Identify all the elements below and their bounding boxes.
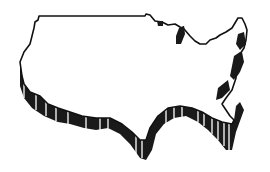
usa-map-graphic bbox=[0, 0, 270, 172]
usa-map-illustration bbox=[0, 0, 270, 172]
